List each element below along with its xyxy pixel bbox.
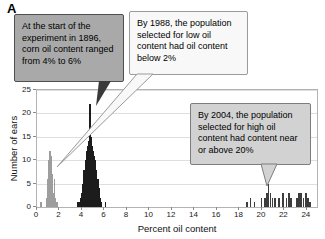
y-tick-mark	[33, 136, 36, 137]
x-tick-label-6: 6	[94, 210, 112, 219]
x-tick-mark	[193, 207, 194, 210]
histogram-bar	[309, 202, 311, 207]
x-tick-mark	[238, 207, 239, 210]
x-tick-mark	[103, 207, 104, 210]
x-tick-mark	[58, 207, 59, 210]
x-tick-label-18: 18	[229, 210, 247, 219]
x-tick-mark	[306, 207, 307, 210]
x-tick-mark	[36, 207, 37, 210]
histogram-bar	[274, 198, 276, 207]
gridline-y-25	[37, 90, 317, 91]
gridline-y-5	[37, 184, 317, 185]
x-tick-label-4: 4	[72, 210, 90, 219]
y-tick-mark	[33, 89, 36, 90]
y-tick-label-20: 20	[16, 108, 31, 117]
x-tick-mark	[283, 207, 284, 210]
histogram-bar	[250, 198, 252, 207]
y-tick-mark	[33, 112, 36, 113]
x-tick-label-22: 22	[274, 210, 292, 219]
histogram-bar	[105, 202, 107, 207]
y-tick-label-25: 25	[16, 85, 31, 94]
x-tick-label-8: 8	[117, 210, 135, 219]
x-tick-label-10: 10	[139, 210, 157, 219]
histogram-bar	[278, 198, 280, 207]
histogram-bar	[290, 198, 292, 207]
histogram-bar	[101, 202, 103, 207]
y-tick-label-10: 10	[16, 155, 31, 164]
x-tick-mark	[171, 207, 172, 210]
figure-panel: A Number of ears Percent oil content At …	[0, 0, 325, 239]
histogram-bar	[261, 198, 263, 207]
histogram-bar	[282, 193, 284, 207]
y-tick-label-5: 5	[16, 179, 31, 188]
x-tick-label-24: 24	[297, 210, 315, 219]
x-tick-label-2: 2	[49, 210, 67, 219]
histogram-bar	[246, 202, 248, 207]
histogram-bar	[40, 202, 42, 207]
x-tick-mark	[216, 207, 217, 210]
x-tick-mark	[148, 207, 149, 210]
histogram-bar	[254, 202, 256, 207]
x-tick-label-12: 12	[162, 210, 180, 219]
y-tick-label-15: 15	[16, 132, 31, 141]
x-tick-mark	[261, 207, 262, 210]
x-tick-mark	[126, 207, 127, 210]
y-tick-mark	[33, 159, 36, 160]
x-axis-title: Percent oil content	[36, 223, 318, 234]
x-tick-mark	[81, 207, 82, 210]
x-tick-label-14: 14	[184, 210, 202, 219]
y-tick-mark	[33, 183, 36, 184]
x-tick-label-16: 16	[207, 210, 225, 219]
callout-1896-start: At the start of the experiment in 1896, …	[14, 14, 124, 82]
x-tick-label-20: 20	[252, 210, 270, 219]
x-tick-label-0: 0	[27, 210, 45, 219]
callout-1988-low-oil: By 1988, the population selected for low…	[129, 11, 248, 75]
callout-2004-high-oil: By 2004, the population selected for hig…	[190, 103, 311, 165]
